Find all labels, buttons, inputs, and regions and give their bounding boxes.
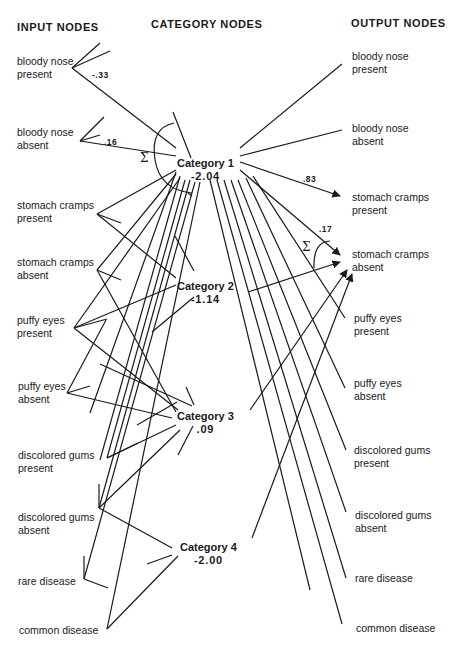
category-value: -1.14 [177, 293, 234, 306]
output-node: bloody nose present [352, 50, 409, 76]
category-name: Category 1 [177, 157, 234, 169]
category-value: .09 [177, 423, 234, 436]
category-node: Category 3 .09 [177, 410, 234, 436]
output-node: common disease [356, 622, 435, 635]
input-nodes-header: INPUT NODES [17, 21, 99, 33]
category-nodes-header: CATEGORY NODES [151, 18, 263, 30]
input-node: stomach cramps present [17, 199, 94, 225]
category-name: Category 4 [180, 541, 237, 553]
weight-label: .17 [319, 224, 332, 234]
sigma-icon: Σ [140, 151, 148, 165]
output-node: rare disease [355, 572, 413, 585]
output-node: discolored gums absent [355, 509, 431, 535]
input-node: bloody nose absent [17, 126, 74, 152]
category-node: Category 2 -1.14 [177, 280, 234, 306]
input-node: stomach cramps absent [17, 256, 94, 282]
weight-label: .83 [303, 174, 316, 184]
input-node: discolored gums absent [18, 511, 94, 537]
input-node: discolored gums present [18, 449, 94, 475]
output-node: stomach cramps present [352, 191, 429, 217]
output-node: puffy eyes absent [354, 377, 402, 403]
output-nodes-header: OUTPUT NODES [351, 17, 446, 29]
input-node: puffy eyes present [17, 314, 65, 340]
output-node: bloody nose absent [352, 122, 409, 148]
input-node: puffy eyes absent [18, 380, 66, 406]
input-node: common disease [19, 624, 98, 637]
sigma-icon: Σ [302, 240, 310, 254]
category-node: Category 4 -2.00 [180, 541, 237, 567]
category-name: Category 2 [177, 280, 234, 292]
category-node: Category 1 -2.04 [177, 157, 234, 183]
category-value: -2.04 [177, 170, 234, 183]
category-name: Category 3 [177, 410, 234, 422]
weight-label: .16 [104, 137, 117, 147]
weight-label: -.33 [92, 70, 109, 80]
output-connections [210, 64, 352, 624]
output-node: discolored gums present [354, 444, 430, 470]
output-node: puffy eyes present [354, 312, 402, 338]
input-node: bloody nose present [17, 55, 74, 81]
output-node: stomach cramps absent [352, 248, 429, 274]
category-value: -2.00 [180, 554, 237, 567]
input-node: rare disease [18, 575, 76, 588]
